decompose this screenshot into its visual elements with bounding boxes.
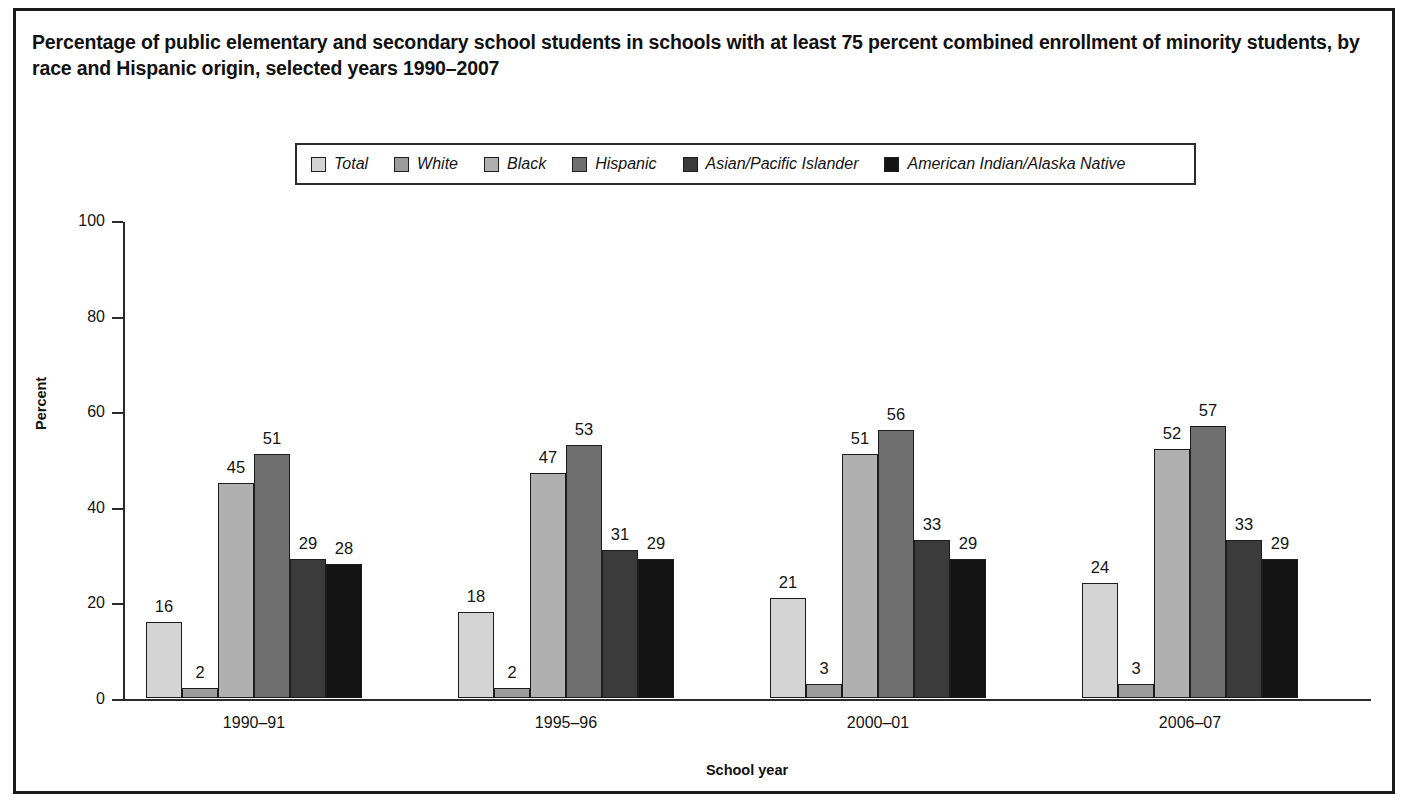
- bar[interactable]: 51: [254, 454, 290, 698]
- bar-group-bars: 18247533129: [458, 220, 674, 698]
- bar[interactable]: 33: [914, 540, 950, 698]
- bar-value-label: 18: [467, 587, 485, 606]
- bar-value-label: 33: [923, 515, 941, 534]
- legend-swatch-icon: [884, 157, 899, 172]
- bar[interactable]: 56: [878, 430, 914, 698]
- bar-group: 18247533129: [458, 220, 674, 698]
- bar-value-label: 2: [195, 663, 204, 682]
- bar-value-label: 51: [263, 429, 281, 448]
- legend-item-label: Black: [507, 155, 546, 173]
- legend-item[interactable]: Asian/Pacific Islander: [683, 155, 859, 173]
- bar-group-bars: 21351563329: [770, 220, 986, 698]
- bar-value-label: 2: [507, 663, 516, 682]
- bar-value-label: 29: [1271, 534, 1289, 553]
- y-axis-tick-label: 0: [59, 690, 105, 708]
- bar-value-label: 33: [1235, 515, 1253, 534]
- bar[interactable]: 2: [182, 688, 218, 698]
- bar[interactable]: 51: [842, 454, 878, 698]
- bar-group-bars: 16245512928: [146, 220, 362, 698]
- y-axis-tick-label: 20: [59, 594, 105, 612]
- bar[interactable]: 53: [566, 445, 602, 698]
- y-axis-tick-label: 60: [59, 403, 105, 421]
- bar[interactable]: 29: [638, 559, 674, 698]
- x-axis-category-label: 1995–96: [496, 714, 636, 732]
- y-axis-tick-label: 40: [59, 499, 105, 517]
- y-axis-tick: [112, 603, 123, 605]
- bar[interactable]: 31: [602, 550, 638, 698]
- bar[interactable]: 2: [494, 688, 530, 698]
- legend-item-label: Hispanic: [595, 155, 656, 173]
- y-axis-tick-label: 80: [59, 308, 105, 326]
- bar-group: 21351563329: [770, 220, 986, 698]
- bar-value-label: 29: [299, 534, 317, 553]
- y-axis-line: [123, 222, 125, 700]
- y-axis-tick: [112, 317, 123, 319]
- legend-item[interactable]: American Indian/Alaska Native: [884, 155, 1125, 173]
- bar-value-label: 29: [959, 534, 977, 553]
- bar[interactable]: 29: [1262, 559, 1298, 698]
- bar-value-label: 31: [611, 525, 629, 544]
- legend-item[interactable]: Hispanic: [572, 155, 656, 173]
- legend-item-label: White: [417, 155, 458, 173]
- legend-swatch-icon: [311, 157, 326, 172]
- y-axis-label: Percent: [33, 377, 49, 430]
- plot-area: 020406080100 162455129281824753312921351…: [123, 222, 1371, 700]
- legend-item[interactable]: Total: [311, 155, 368, 173]
- bar[interactable]: 24: [1082, 583, 1118, 698]
- bar-group: 24352573329: [1082, 220, 1298, 698]
- bar[interactable]: 28: [326, 564, 362, 698]
- bar[interactable]: 29: [290, 559, 326, 698]
- bar[interactable]: 57: [1190, 426, 1226, 698]
- legend-swatch-icon: [683, 157, 698, 172]
- bar-value-label: 53: [575, 420, 593, 439]
- bar-value-label: 57: [1199, 401, 1217, 420]
- y-axis-tick: [112, 221, 123, 223]
- bar-value-label: 51: [851, 429, 869, 448]
- legend-item[interactable]: Black: [484, 155, 546, 173]
- legend-item-label: American Indian/Alaska Native: [907, 155, 1125, 173]
- chart-title: Percentage of public elementary and seco…: [32, 30, 1362, 81]
- bar-value-label: 24: [1091, 558, 1109, 577]
- y-axis-tick: [112, 412, 123, 414]
- x-axis-label: School year: [123, 762, 1371, 778]
- y-axis-tick-label: 100: [59, 212, 105, 230]
- bar[interactable]: 16: [146, 622, 182, 698]
- bar-value-label: 3: [819, 659, 828, 678]
- bar[interactable]: 45: [218, 483, 254, 698]
- bar[interactable]: 3: [1118, 684, 1154, 698]
- bar[interactable]: 21: [770, 598, 806, 698]
- x-axis-category-label: 2006–07: [1120, 714, 1260, 732]
- chart-legend: TotalWhiteBlackHispanicAsian/Pacific Isl…: [295, 143, 1196, 185]
- legend-swatch-icon: [394, 157, 409, 172]
- legend-item[interactable]: White: [394, 155, 458, 173]
- bar[interactable]: 3: [806, 684, 842, 698]
- bar-value-label: 28: [335, 539, 353, 558]
- bar[interactable]: 52: [1154, 449, 1190, 698]
- x-axis-category-label: 2000–01: [808, 714, 948, 732]
- bar[interactable]: 33: [1226, 540, 1262, 698]
- bar-value-label: 47: [539, 448, 557, 467]
- bar-group-bars: 24352573329: [1082, 220, 1298, 698]
- legend-item-label: Asian/Pacific Islander: [706, 155, 859, 173]
- bar[interactable]: 18: [458, 612, 494, 698]
- x-axis-category-label: 1990–91: [184, 714, 324, 732]
- bar-value-label: 3: [1131, 659, 1140, 678]
- y-axis-tick: [112, 508, 123, 510]
- bar-value-label: 21: [779, 573, 797, 592]
- x-axis-line: [123, 699, 1371, 701]
- legend-swatch-icon: [572, 157, 587, 172]
- bar[interactable]: 47: [530, 473, 566, 698]
- bar-value-label: 45: [227, 458, 245, 477]
- legend-item-label: Total: [334, 155, 368, 173]
- y-axis-tick: [112, 699, 123, 701]
- bar-value-label: 16: [155, 597, 173, 616]
- bar-value-label: 56: [887, 405, 905, 424]
- bar[interactable]: 29: [950, 559, 986, 698]
- chart-figure: Percentage of public elementary and seco…: [0, 0, 1410, 810]
- legend-swatch-icon: [484, 157, 499, 172]
- bar-value-label: 29: [647, 534, 665, 553]
- bar-value-label: 52: [1163, 424, 1181, 443]
- bar-group: 16245512928: [146, 220, 362, 698]
